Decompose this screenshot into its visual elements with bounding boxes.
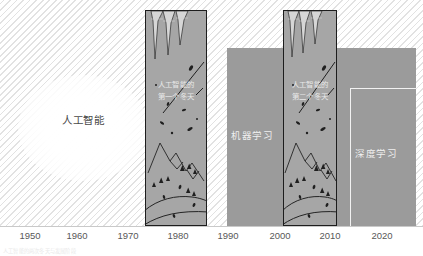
figure-canvas: 机器学习 深度学习 人工智能	[0, 0, 423, 256]
artificial-intelligence-label: 人工智能	[18, 112, 148, 127]
figure-footnote: 人工智能的两次冬天与发展阶段	[3, 247, 76, 254]
winter-2-scene-icon	[284, 11, 337, 226]
axis-tick-2020: 2020	[371, 230, 392, 241]
machine-learning-label: 机器学习	[231, 128, 273, 142]
axis-tick-1970: 1970	[117, 230, 138, 241]
winter-1-scene-icon	[146, 11, 207, 226]
axis-tick-1960: 1960	[66, 230, 87, 241]
axis-tick-1950: 1950	[19, 230, 40, 241]
ai-winter-1-column: 人工智能的 第一个冬天	[145, 10, 207, 226]
artificial-intelligence-glow	[18, 75, 148, 181]
axis-tick-1980: 1980	[167, 230, 188, 241]
axis-tick-2000: 2000	[269, 230, 290, 241]
timeline-axis	[0, 226, 423, 227]
axis-tick-2010: 2010	[319, 230, 340, 241]
axis-tick-1990: 1990	[217, 230, 238, 241]
ai-winter-2-column: 人工智能的 第二个冬天	[283, 10, 337, 226]
deep-learning-label: 深度学习	[355, 146, 397, 160]
